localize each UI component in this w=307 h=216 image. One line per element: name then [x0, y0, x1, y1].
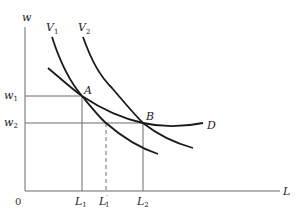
curve-V2: [83, 37, 193, 148]
curve-D: [48, 68, 203, 126]
y-axis-label: w: [22, 11, 32, 24]
y-tick-w2: w2: [4, 116, 18, 130]
point-B-label: B: [145, 110, 154, 123]
origin-label: 0: [15, 196, 21, 207]
x-tick-L1-prime: L′1: [98, 194, 109, 209]
label-V1: V1: [46, 21, 58, 36]
y-tick-w1: w1: [4, 89, 18, 103]
x-tick-L1: L1: [74, 195, 87, 209]
economics-diagram: w L 0 V1 V2 D A B w1 w2 L1 L′1 L2: [0, 0, 307, 216]
label-D: D: [206, 119, 216, 132]
x-tick-L2: L2: [136, 195, 149, 209]
label-V2: V2: [78, 21, 90, 36]
point-A-label: A: [83, 84, 92, 97]
x-axis-label: L: [282, 185, 290, 198]
